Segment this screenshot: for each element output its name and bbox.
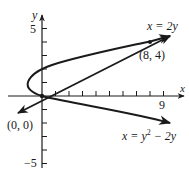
y-tick-label-5: 5 [30,22,36,36]
y-axis: y 5 −5 [24,8,47,170]
parabola-label-lhs: x = y [121,129,147,143]
point-label-origin: (0, 0) [7,118,33,132]
point-origin [40,94,44,98]
y-axis-label: y [31,8,38,22]
graph-figure: y 5 −5 x 9 x = 2y (8, 4) (0, 0) x = y2 −… [0,0,189,170]
point-label-8-4: (8, 4) [139,48,165,62]
x-axis-ticks [56,91,164,96]
point-8-4 [148,40,152,44]
x-axis-label: x [179,82,185,94]
line-equation-label: x = 2y [146,19,178,33]
x-tick-label-9: 9 [159,98,165,112]
parabola-label-rhs: − 2y [151,129,177,143]
parabola-equation-label: x = y2 − 2y [121,128,177,143]
y-tick-label-neg5: −5 [24,156,37,170]
